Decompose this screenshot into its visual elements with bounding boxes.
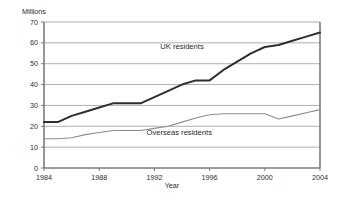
x-tick-label-1996: 1996 bbox=[202, 173, 218, 182]
x-tick-label-1988: 1988 bbox=[91, 173, 107, 182]
x-tick-label-1984: 1984 bbox=[36, 173, 52, 182]
chart-container: 010203040506070 198419881992199620002004… bbox=[0, 0, 345, 201]
y-axis-title: Millions bbox=[22, 7, 46, 16]
series-label-overseas-residents: Overseas residents bbox=[147, 128, 213, 137]
x-tick-label-2004: 2004 bbox=[312, 173, 328, 182]
chart-background bbox=[0, 0, 345, 201]
line-chart: 010203040506070 198419881992199620002004… bbox=[0, 0, 345, 201]
y-tick-label-30: 30 bbox=[30, 101, 38, 110]
y-tick-label-40: 40 bbox=[30, 80, 38, 89]
y-tick-label-20: 20 bbox=[30, 122, 38, 131]
y-tick-label-10: 10 bbox=[30, 143, 38, 152]
x-axis-title: Year bbox=[165, 181, 180, 190]
x-tick-label-2000: 2000 bbox=[257, 173, 273, 182]
y-tick-label-0: 0 bbox=[34, 164, 38, 173]
y-tick-label-70: 70 bbox=[30, 18, 38, 27]
series-label-uk-residents: UK residents bbox=[160, 42, 204, 51]
y-tick-label-50: 50 bbox=[30, 59, 38, 68]
y-tick-label-60: 60 bbox=[30, 38, 38, 47]
x-tick-label-1992: 1992 bbox=[146, 173, 162, 182]
